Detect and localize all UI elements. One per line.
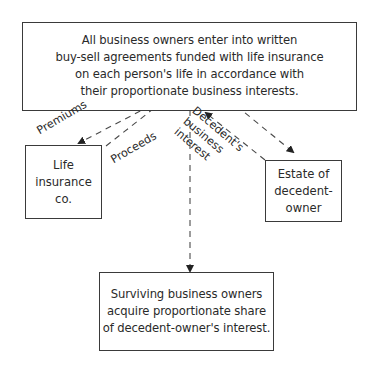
decedent-interest-label: Decedent's business interest bbox=[171, 104, 246, 177]
estate-box: Estate of decedent- owner bbox=[265, 160, 342, 222]
buy-sell-agreement-box: All business owners enter into written b… bbox=[22, 22, 357, 111]
estate-text: Estate of decedent- owner bbox=[274, 166, 333, 217]
life-insurance-box: Life insurance co. bbox=[25, 145, 102, 219]
surviving-owners-box: Surviving business owners acquire propor… bbox=[99, 272, 274, 351]
surviving-owners-text: Surviving business owners acquire propor… bbox=[103, 286, 271, 337]
buy-sell-agreement-text: All business owners enter into written b… bbox=[55, 32, 323, 100]
life-insurance-text: Life insurance co. bbox=[35, 157, 92, 208]
proceeds-label: Proceeds bbox=[109, 129, 159, 166]
